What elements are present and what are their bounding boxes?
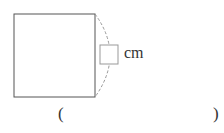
unit-label: cm: [124, 44, 144, 62]
square-diagram: [0, 0, 224, 133]
square-shape: [14, 14, 95, 97]
answer-open-paren: (: [58, 104, 64, 124]
side-length-answer-box[interactable]: [100, 45, 118, 64]
answer-close-paren: ): [213, 104, 219, 124]
